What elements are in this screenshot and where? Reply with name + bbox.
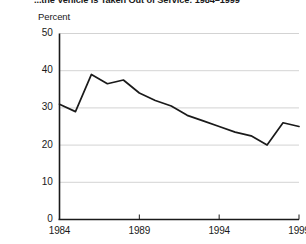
chart-container: ...the Vehicle is Taken Out of Service: … <box>0 0 306 244</box>
y-axis-tick-label: 40 <box>27 64 53 75</box>
x-axis-tick-label: 1999 <box>279 225 306 236</box>
gridlines <box>60 34 300 183</box>
y-axis-tick-label: 50 <box>27 27 53 38</box>
x-axis-tick-label: 1994 <box>199 225 239 236</box>
x-axis-tick-label: 1989 <box>119 225 159 236</box>
y-axis-tick-label: 20 <box>27 139 53 150</box>
x-axis-tick-label: 1984 <box>40 225 80 236</box>
data-series-line <box>60 74 300 145</box>
y-axis-tick-label: 0 <box>27 213 53 224</box>
y-axis-tick-label: 30 <box>27 101 53 112</box>
y-axis-tick-label: 10 <box>27 176 53 187</box>
